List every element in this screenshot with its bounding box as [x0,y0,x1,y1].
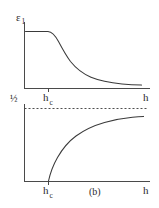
top-panel-x-axis-label: h [143,91,149,103]
bottom-panel-y-axis-label: ½ [10,93,18,104]
top-panel-xtick-label-subscript: c [50,98,54,107]
bottom-panel-xtick-label-subscript: c [50,191,54,200]
figure-container: ε 1 h c h ½ [0,0,159,208]
top-panel: ε 1 [16,11,150,92]
top-panel-y-axis-label: ε [16,11,21,23]
top-panel-y-axis-label-subscript: 1 [22,17,26,26]
bottom-panel-curve [49,116,144,181]
top-panel-axis-labels: h c h ½ [10,91,149,107]
top-panel-xtick-label-base: h [43,91,49,103]
top-panel-curve [26,32,142,86]
bottom-panel-axis-labels: h c (b) h [43,184,149,200]
figure-caption: (b) [89,186,101,198]
figure-svg: ε 1 h c h ½ [0,0,159,208]
bottom-panel-x-axis-label: h [143,184,149,196]
bottom-panel [25,104,151,185]
bottom-panel-xtick-label-base: h [43,184,49,196]
